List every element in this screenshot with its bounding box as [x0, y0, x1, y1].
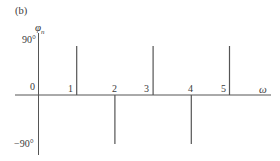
chart-plot	[0, 0, 280, 161]
